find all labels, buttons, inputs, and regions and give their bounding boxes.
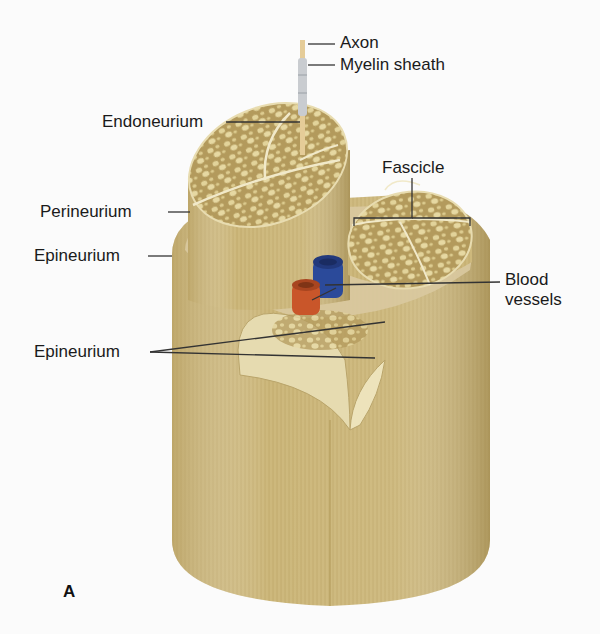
label-epineurium-inner: Epineurium [34, 342, 120, 362]
label-perineurium: Perineurium [40, 202, 132, 222]
label-fascicle: Fascicle [382, 158, 444, 178]
label-blood-vessels-2: vessels [505, 290, 562, 310]
panel-label: A [63, 582, 75, 602]
nerve-diagram [0, 0, 600, 634]
label-endoneurium: Endoneurium [102, 112, 203, 132]
label-myelin-sheath: Myelin sheath [340, 55, 445, 75]
label-epineurium-outer: Epineurium [34, 246, 120, 266]
label-blood-vessels-1: Blood [505, 270, 548, 290]
label-axon: Axon [340, 33, 379, 53]
artery [292, 279, 320, 315]
